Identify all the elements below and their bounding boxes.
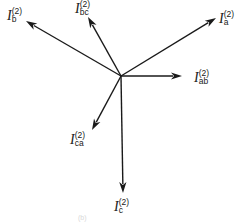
phasor-line-ica [96, 76, 121, 122]
label-ib: I(2)b [7, 7, 22, 23]
phasor-line-ic [121, 76, 123, 184]
arrowhead-icon-ica [92, 119, 100, 130]
arrowhead-icon-ia [205, 18, 216, 27]
label-iab: I(2)ab [194, 69, 209, 85]
phasor-diagram [0, 0, 235, 222]
label-ica-subscript: ca [75, 139, 85, 147]
label-ib-subscript: b [12, 15, 22, 23]
arrowhead-icon-ibc [88, 17, 97, 28]
label-ic-subscript: c [119, 206, 129, 214]
arrowhead-icon-ib [26, 21, 37, 30]
label-ibc-subscript: bc [80, 8, 90, 16]
phasor-line-ia [121, 23, 208, 76]
label-ica: I(2)ca [70, 131, 85, 147]
label-ic: I(2)c [114, 198, 129, 214]
label-ia: I(2)a [219, 10, 234, 26]
phasor-arrows [26, 17, 216, 193]
label-ibc: I(2)bc [75, 0, 90, 16]
figure-caption: (b) [78, 214, 87, 221]
phasor-line-ib [34, 26, 121, 76]
label-iab-subscript: ab [199, 77, 209, 85]
label-ia-subscript: a [224, 18, 234, 26]
